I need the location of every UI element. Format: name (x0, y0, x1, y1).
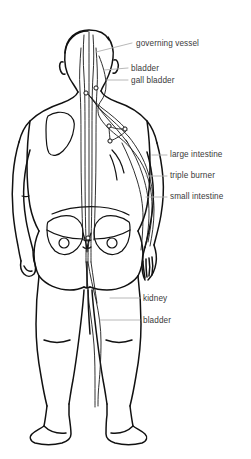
label-gall-bladder: gall bladder (131, 76, 175, 85)
label-kidney: kidney (143, 294, 167, 303)
acupoint-neck-left (84, 91, 88, 95)
acupoint-mid-back (108, 139, 112, 143)
label-small-intestine: small intestine (170, 192, 223, 201)
figure-illustration (0, 0, 251, 459)
label-large-intestine: large intestine (170, 150, 222, 159)
label-bladder: bladder (131, 64, 159, 73)
acupoint-neck-right (94, 86, 98, 90)
anatomy-diagram: governing vessel bladder gall bladder la… (0, 0, 251, 459)
acupoint-scapula (107, 124, 111, 128)
label-governing-vessel: governing vessel (136, 39, 199, 48)
meridian-bladder-left (83, 35, 86, 262)
leader-bladder (104, 68, 128, 70)
leader-governing-vessel (96, 43, 132, 52)
acupoint-shoulder (123, 127, 127, 131)
label-bladder-lower: bladder (143, 316, 171, 325)
meridian-lines (80, 32, 154, 407)
meridian-governing-vessel (88, 32, 89, 262)
acupoint-sacrum (86, 236, 90, 240)
label-triple-burner: triple burner (170, 171, 215, 180)
meridian-bladder-right (91, 35, 94, 262)
